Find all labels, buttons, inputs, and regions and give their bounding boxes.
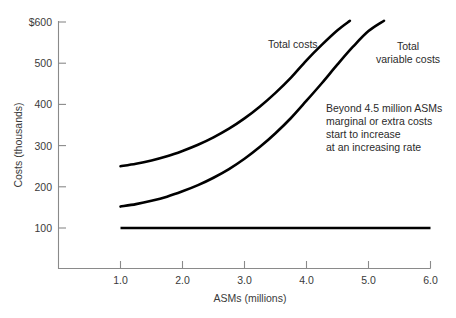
series-label-total-variable-costs: Total variable costs	[376, 40, 440, 65]
marginal-cost-note-line-3: start to increase	[326, 128, 401, 140]
y-tick-label-600: $600	[29, 16, 53, 28]
y-tick-label-300: 300	[34, 140, 52, 152]
x-axis-title: ASMs (millions)	[214, 292, 287, 304]
chart-canvas: $600 500 400 300 200 100 1.0 2.0 3.0 4.0…	[0, 0, 456, 318]
y-tick-label-400: 400	[34, 98, 52, 110]
series-label-total-costs: Total costs	[268, 38, 318, 50]
y-axis-ticks	[59, 22, 67, 228]
x-tick-label-5: 5.0	[361, 274, 376, 286]
series-label-total-variable-costs-line-1: Total	[397, 40, 419, 52]
y-tick-label-100: 100	[34, 222, 52, 234]
x-tick-label-4: 4.0	[299, 274, 314, 286]
x-axis-ticks	[121, 261, 431, 269]
marginal-cost-note-line-1: Beyond 4.5 million ASMs	[326, 102, 442, 114]
x-tick-label-3: 3.0	[237, 274, 252, 286]
x-tick-label-2: 2.0	[175, 274, 190, 286]
series-label-total-variable-costs-line-2: variable costs	[376, 53, 440, 65]
y-axis-title: Costs (thousands)	[12, 102, 24, 187]
marginal-cost-note-line-4: at an increasing rate	[326, 141, 421, 153]
y-tick-label-200: 200	[34, 181, 52, 193]
marginal-cost-note-line-2: marginal or extra costs	[326, 115, 432, 127]
x-tick-label-1: 1.0	[113, 274, 128, 286]
cost-behavior-chart: $600 500 400 300 200 100 1.0 2.0 3.0 4.0…	[0, 0, 456, 318]
marginal-cost-note: Beyond 4.5 million ASMs marginal or extr…	[326, 102, 442, 153]
x-tick-label-6: 6.0	[423, 274, 438, 286]
y-tick-label-500: 500	[34, 57, 52, 69]
